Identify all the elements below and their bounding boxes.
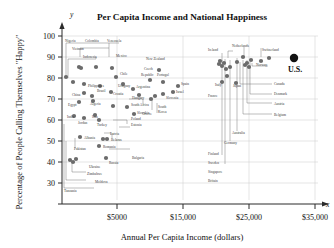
label-israel: Israel — [176, 90, 184, 94]
label-zimbabwe: Zimbabwe — [87, 172, 102, 176]
label-pakistan: Pakistan — [74, 147, 86, 151]
point-estonia[interactable] — [90, 94, 94, 98]
label-romania: Romania — [103, 145, 116, 149]
label-belgium: Belgium — [274, 113, 286, 117]
point-belgium[interactable] — [247, 65, 251, 69]
point-egypt[interactable] — [77, 100, 81, 104]
label-norway: Norway — [256, 63, 268, 67]
point-nigeria[interactable] — [64, 75, 68, 79]
point-mexico[interactable] — [110, 66, 114, 70]
label-italy: Italy — [215, 83, 222, 87]
point-southafrica[interactable] — [125, 105, 129, 109]
label-estonia: Estonia — [131, 123, 142, 127]
point-sweden[interactable] — [222, 61, 226, 65]
label-newzealand: New Zealand — [146, 57, 165, 61]
label-czech: Czech — [144, 67, 153, 71]
label-portugal: Portugal — [157, 73, 169, 77]
point-austria[interactable] — [243, 63, 247, 67]
label-austria: Austria — [274, 102, 285, 106]
point-czech[interactable] — [148, 78, 152, 82]
point-germany[interactable] — [228, 65, 232, 69]
point-philippines[interactable] — [82, 82, 86, 86]
x-tick-15000: $15,000 — [170, 213, 196, 222]
label-chile: Chile — [120, 72, 128, 76]
point-romania[interactable] — [97, 144, 101, 148]
y-axis-arrow — [59, 22, 64, 29]
y-axis-variable-label: y — [69, 10, 74, 19]
chart-title: Per Capita Income and National Happiness — [97, 12, 267, 22]
point-denmark[interactable] — [249, 58, 253, 62]
point-jordan[interactable] — [82, 116, 86, 120]
point-ukraine[interactable] — [71, 160, 75, 164]
label-southafrica: South Africa — [131, 103, 149, 107]
x-tick-5000: $5000 — [107, 213, 127, 222]
axis-lines — [58, 22, 329, 207]
label-poland: Poland — [131, 117, 141, 121]
point-venezuela[interactable] — [94, 65, 98, 69]
point-israel[interactable] — [171, 90, 175, 94]
label-switzerland: Switzerland — [262, 48, 279, 52]
label-slovenia: Slovenia — [166, 96, 179, 100]
point-belarus[interactable] — [105, 137, 109, 141]
label-germany: Germany — [224, 141, 237, 145]
y-tick-60: 60 — [47, 116, 55, 125]
y-tick-40: 40 — [47, 158, 55, 167]
point-vietnam[interactable] — [71, 80, 75, 84]
point-slovakia[interactable] — [132, 112, 136, 116]
x-axis-ticks: $5000 $15,000 $25,000 $35,000 — [107, 204, 328, 222]
data-points — [64, 54, 298, 164]
label-nigeria: Nigeria — [65, 39, 76, 43]
label-uruguay: Uruguay — [118, 84, 130, 88]
point-latvia[interactable] — [101, 137, 105, 141]
label-ukraine: Ukraine — [89, 165, 101, 169]
label-venezuela: Venezuela — [107, 39, 122, 43]
scatter-plot-svg: Per Capita Income and National Happiness… — [0, 0, 334, 248]
label-russia: Russia — [109, 161, 119, 165]
point-newzealand[interactable] — [157, 68, 161, 72]
point-poland[interactable] — [111, 104, 115, 108]
point-switzerland[interactable] — [267, 56, 271, 60]
point-southkorea[interactable] — [153, 94, 157, 98]
point-australia[interactable] — [235, 60, 239, 64]
label-france: France — [208, 94, 218, 98]
point-britain[interactable] — [217, 62, 221, 66]
x-axis-title: Annual Per Capita Income (dollars) — [121, 232, 244, 242]
point-albania[interactable] — [78, 135, 82, 139]
label-egypt: Egypt — [68, 103, 76, 107]
y-tick-30: 30 — [47, 179, 55, 188]
label-finland: Finland — [208, 152, 219, 156]
point-labels: Nigeria Colombia Venezuela Vietnam Indon… — [64, 39, 287, 193]
chart-figure: Per Capita Income and National Happiness… — [0, 0, 334, 248]
point-argentina[interactable] — [131, 87, 135, 91]
point-singapore[interactable] — [224, 67, 228, 71]
label-india: India — [67, 115, 75, 119]
label-sweden: Sweden — [208, 161, 219, 165]
label-republic: Republic — [141, 73, 154, 77]
label-japan: Japan — [233, 84, 241, 88]
label-albania: Albania — [84, 136, 96, 140]
label-china: China — [72, 93, 81, 97]
point-greece[interactable] — [149, 97, 153, 101]
point-chile[interactable] — [114, 75, 118, 79]
label-latvia: Latvia — [110, 132, 119, 136]
point-portugal[interactable] — [161, 80, 165, 84]
point-france[interactable] — [225, 74, 229, 78]
point-russia[interactable] — [104, 156, 108, 160]
point-spain[interactable] — [176, 84, 180, 88]
point-bulgaria[interactable] — [74, 157, 78, 161]
point-netherlands[interactable] — [241, 55, 245, 59]
label-korea: Korea — [158, 110, 167, 114]
label-denmark: Denmark — [274, 92, 287, 96]
label-moldova: Moldova — [95, 180, 108, 184]
point-china[interactable] — [82, 91, 86, 95]
label-colombia: Colombia — [85, 39, 99, 43]
point-slovenia[interactable] — [161, 92, 165, 96]
label-turkey: Turkey — [97, 123, 107, 127]
label-netherlands: Netherlands — [232, 44, 250, 48]
y-axis-title: Percentage of People Calling Themselves … — [14, 34, 24, 209]
point-indonesia[interactable] — [79, 66, 83, 70]
label-philippines: Philippines — [88, 84, 104, 88]
label-iran: Iran — [92, 115, 98, 119]
label-algeria: Algeria — [90, 102, 101, 106]
point-united-states[interactable] — [290, 54, 298, 62]
